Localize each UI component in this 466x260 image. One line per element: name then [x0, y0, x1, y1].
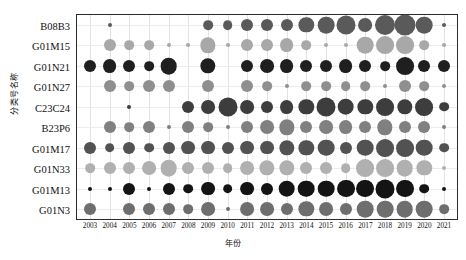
- bubble-marker: [298, 180, 315, 197]
- bubble-marker: [85, 163, 95, 173]
- y-tick-label: B23P6: [41, 124, 70, 135]
- x-tick-label: 2005: [122, 222, 136, 230]
- bubble-marker: [420, 41, 430, 51]
- y-tick-label: G01N21: [34, 63, 70, 74]
- bubble-marker: [280, 100, 294, 114]
- bubble-marker: [261, 101, 273, 113]
- bubble-marker: [377, 201, 394, 218]
- x-axis-title: 年份: [0, 237, 466, 248]
- bubble-marker: [376, 37, 394, 55]
- bubble-marker: [359, 121, 371, 133]
- x-tick-label: 2017: [358, 222, 372, 230]
- bubble-marker: [302, 41, 312, 51]
- bubble-marker: [356, 159, 374, 177]
- bubble-marker: [241, 19, 253, 31]
- bubble-marker: [202, 80, 214, 92]
- bubble-marker: [84, 142, 96, 154]
- bubble-marker: [123, 60, 135, 72]
- bubble-marker: [339, 59, 353, 73]
- bubble-marker: [241, 39, 253, 51]
- x-axis-tick-labels: 2003200420052006200720082009201020112012…: [76, 221, 458, 235]
- bubble-marker: [416, 139, 433, 156]
- bubble-marker: [184, 184, 194, 194]
- bubble-marker: [415, 98, 433, 116]
- bubble-marker: [182, 162, 194, 174]
- bubble-marker: [163, 80, 175, 92]
- bubble-marker: [439, 204, 449, 214]
- bubble-marker: [439, 102, 449, 112]
- bubble-marker: [202, 162, 214, 174]
- bubble-marker: [278, 180, 295, 197]
- bubble-marker: [241, 60, 253, 72]
- bubble-marker: [261, 19, 273, 31]
- bubble-marker: [240, 141, 254, 155]
- bubble-marker: [105, 143, 115, 153]
- bubble-marker: [240, 182, 254, 196]
- bubble-marker: [396, 180, 414, 198]
- bubble-marker: [339, 120, 353, 134]
- bubble-marker: [262, 82, 272, 92]
- bubble-marker: [336, 16, 355, 35]
- bubble-marker: [396, 57, 414, 75]
- bubble-marker: [341, 82, 351, 92]
- y-tick-label: G01N27: [34, 83, 70, 94]
- bubble-marker: [203, 122, 213, 132]
- x-tick-label: 2003: [83, 222, 97, 230]
- bubble-marker: [226, 43, 230, 47]
- bubble-marker: [160, 160, 177, 177]
- bubble-marker: [88, 187, 92, 191]
- bubble-marker: [420, 82, 430, 92]
- bubble-marker: [203, 20, 213, 30]
- bubble-marker: [143, 121, 155, 133]
- bubble-marker: [357, 139, 374, 156]
- bubble-marker: [104, 39, 116, 51]
- x-tick-label: 2009: [201, 222, 215, 230]
- bubble-marker: [358, 18, 372, 32]
- bubble-marker: [357, 201, 374, 218]
- bubble-marker: [380, 61, 390, 71]
- bubble-marker: [222, 142, 234, 154]
- bubble-marker: [144, 61, 154, 71]
- bubble-marker: [84, 203, 96, 215]
- bubble-marker: [321, 82, 331, 92]
- bubble-marker: [416, 201, 433, 218]
- y-tick-label: G01M13: [32, 185, 70, 196]
- plot-area: [76, 14, 458, 220]
- bubble-marker: [376, 139, 394, 157]
- x-tick-label: 2004: [102, 222, 116, 230]
- bubble-marker: [163, 183, 175, 195]
- bubble-marker: [376, 98, 394, 116]
- bubble-marker: [416, 17, 433, 34]
- bubble-marker: [260, 59, 274, 73]
- bubble-marker: [280, 59, 294, 73]
- bubble-marker: [104, 80, 116, 92]
- bubble-marker: [260, 120, 274, 134]
- x-tick-label: 2020: [417, 222, 431, 230]
- x-tick-label: 2014: [299, 222, 313, 230]
- y-tick-label: B08B3: [40, 22, 70, 33]
- bubble-marker: [318, 17, 335, 34]
- bubble-marker: [108, 23, 112, 27]
- bubble-marker: [318, 180, 335, 197]
- bubble-marker: [442, 43, 446, 47]
- bubble-marker: [376, 159, 394, 177]
- bubble-marker: [442, 23, 446, 27]
- bubble-marker: [103, 59, 117, 73]
- bubble-marker: [442, 125, 446, 129]
- bubble-marker: [344, 43, 348, 47]
- x-tick-label: 2011: [240, 222, 254, 230]
- bubble-marker: [375, 15, 395, 35]
- bubble-marker: [356, 180, 374, 198]
- bubble-marker: [226, 125, 230, 129]
- bubble-marker: [144, 41, 154, 51]
- bubble-marker: [127, 105, 131, 109]
- x-tick-label: 2015: [319, 222, 333, 230]
- bubble-marker: [324, 43, 328, 47]
- bubble-marker: [240, 100, 254, 114]
- y-axis-tick-labels: B08B3G01M15G01N21G01N27C23C24B23P6G01M17…: [0, 16, 74, 220]
- x-tick-label: 2006: [142, 222, 156, 230]
- bubble-marker: [143, 80, 155, 92]
- bubble-marker: [186, 43, 190, 47]
- bubble-marker: [261, 183, 273, 195]
- x-tick-label: 2013: [279, 222, 293, 230]
